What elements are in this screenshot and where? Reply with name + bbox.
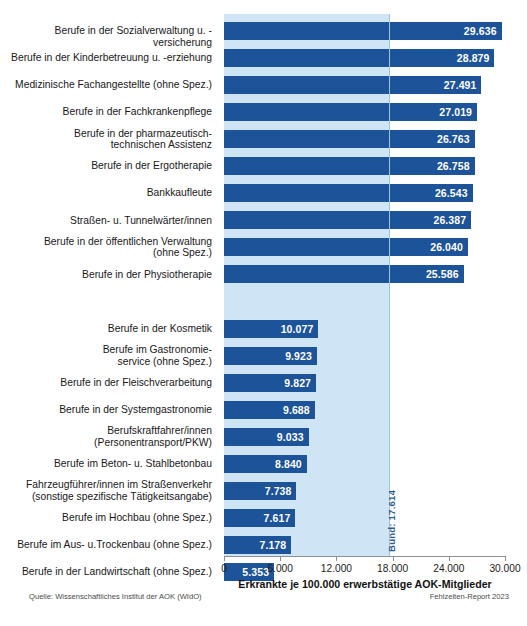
category-label: Berufe in der öffentlichen Verwaltung (o…: [0, 236, 218, 259]
bar-value-label: 7.617: [264, 512, 291, 524]
category-label: Berufe im Beton- u. Stahlbetonbau: [0, 458, 218, 470]
x-axis-tick: [280, 556, 281, 561]
category-label-column: Berufe in der Sozialverwaltung u. -versi…: [0, 0, 218, 626]
x-axis-tick-label: 6.000: [267, 563, 293, 574]
category-label: Berufe in der Physiotherapie: [0, 269, 218, 281]
bar-value-label: 26.040: [430, 241, 463, 253]
bar-value-label: 26.387: [433, 214, 466, 226]
category-label: Berufe im Gastronomie- service (ohne Spe…: [0, 344, 218, 367]
bar: 28.879: [224, 49, 494, 67]
x-axis-line: [224, 556, 506, 557]
bar: 9.688: [224, 401, 315, 419]
x-axis-tick-label: 30.000: [489, 563, 520, 574]
category-label: Berufe in der Kinderbetreuung u. -erzieh…: [0, 52, 218, 64]
x-axis-tick: [449, 556, 450, 561]
bar-value-label: 9.033: [277, 431, 304, 443]
category-label: Fahrzeugführer/innen im Straßenverkehr (…: [0, 479, 218, 502]
bar-value-label: 25.586: [426, 268, 459, 280]
bar-value-label: 29.636: [464, 25, 497, 37]
bar-value-label: 9.923: [285, 350, 312, 362]
bar-value-label: 5.353: [242, 566, 269, 578]
bar-value-label: 26.763: [437, 133, 470, 145]
bar-value-label: 27.491: [444, 79, 477, 91]
bar-value-label: 10.077: [281, 323, 314, 335]
x-axis-tick: [505, 556, 506, 561]
bar: 10.077: [224, 320, 318, 338]
bar-value-label: 28.879: [457, 52, 490, 64]
bar: 9.827: [224, 374, 316, 392]
bar: 25.586: [224, 265, 464, 283]
x-axis-tick-label: 0: [221, 563, 227, 574]
x-axis-tick: [224, 556, 225, 561]
bund-reference-label: Bund: 17.614: [386, 490, 397, 552]
bar-value-label: 26.543: [435, 187, 468, 199]
bar: 7.617: [224, 509, 295, 527]
bar: 9.923: [224, 347, 317, 365]
category-label: Berufe in der Kosmetik: [0, 323, 218, 335]
x-axis-tick-label: 12.000: [321, 563, 352, 574]
bar: 8.840: [224, 455, 307, 473]
x-axis-tick-label: 18.000: [377, 563, 408, 574]
category-label: Bankkaufleute: [0, 187, 218, 199]
plot-area: 29.63628.87927.49127.01926.76326.75826.5…: [224, 14, 505, 556]
category-label: Berufe in der Systemgastronomie: [0, 404, 218, 416]
category-label: Berufe in der Landwirtschaft (ohne Spez.…: [0, 566, 218, 578]
chart-root: Berufe in der Sozialverwaltung u. -versi…: [0, 0, 527, 626]
bar: 26.543: [224, 184, 473, 202]
bar-value-label: 7.738: [265, 485, 292, 497]
bar: 26.763: [224, 130, 475, 148]
bar-value-label: 8.840: [275, 458, 302, 470]
category-label: Berufe in der Fleischverarbeitung: [0, 377, 218, 389]
category-label: Berufe im Hochbau (ohne Spez.): [0, 512, 218, 524]
bar: 26.040: [224, 238, 468, 256]
x-axis-tick: [393, 556, 394, 561]
bund-reference-line: [389, 14, 390, 556]
bar: 9.033: [224, 428, 309, 446]
bar: 26.387: [224, 211, 471, 229]
category-label: Berufskraftfahrer/innen (Personentranspo…: [0, 425, 218, 448]
category-label: Berufe in der Fachkrankenpflege: [0, 106, 218, 118]
category-label: Berufe im Aus- u.Trockenbau (ohne Spez.): [0, 539, 218, 551]
bar-value-label: 9.688: [283, 404, 310, 416]
x-axis-tick-label: 24.000: [433, 563, 464, 574]
bar: 27.491: [224, 76, 481, 94]
category-label: Berufe in der Sozialverwaltung u. -versi…: [0, 25, 218, 48]
x-axis-tick: [336, 556, 337, 561]
category-label: Medizinische Fachangestellte (ohne Spez.…: [0, 79, 218, 91]
x-axis-title: Erkrankte je 100.000 erwerbstätige AOK-M…: [224, 578, 506, 590]
bar-value-label: 9.827: [284, 377, 311, 389]
category-label: Berufe in der Ergotherapie: [0, 160, 218, 172]
bar: 7.178: [224, 536, 291, 554]
bar: 26.758: [224, 157, 475, 175]
reference-band: [224, 14, 389, 556]
bar-value-label: 7.178: [259, 539, 286, 551]
bar: 27.019: [224, 103, 477, 121]
category-label: Straßen- u. Tunnelwärter/innen: [0, 215, 218, 227]
bar-value-label: 27.019: [439, 106, 472, 118]
bar-value-label: 26.758: [437, 160, 470, 172]
report-note: Fehlzeiten-Report 2023: [430, 592, 509, 601]
source-note: Quelle: Wissenschaftliches Institut der …: [29, 592, 202, 601]
bar: 7.738: [224, 482, 296, 500]
category-label: Berufe in der pharmazeutisch- technische…: [0, 128, 218, 151]
bar: 29.636: [224, 22, 502, 40]
